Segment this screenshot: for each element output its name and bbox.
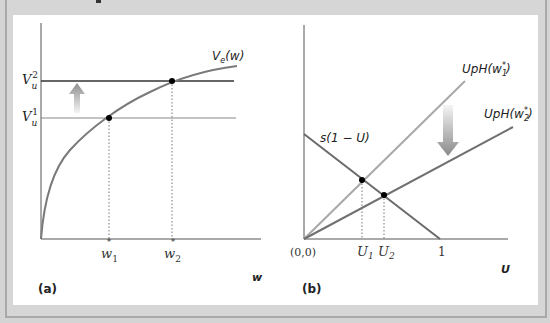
w2-star: *	[171, 237, 176, 247]
w2-tick-label: w2	[164, 246, 181, 264]
down-arrow-icon	[437, 105, 459, 156]
equilibrium-point-w2	[169, 78, 175, 84]
u2-tick-label: U2	[378, 244, 395, 261]
w1-star: *	[107, 237, 112, 247]
equilibrium-point-u1	[359, 177, 365, 183]
s-line-label: s(1 − U)	[320, 131, 370, 145]
figure-svg: Vu2 Vu1 Ve(w) w1 * w2 * w (a) s(1 − U) U…	[0, 0, 550, 323]
uph-w1-label: UpH(w1*)	[462, 61, 511, 78]
w1-tick-label: w1	[101, 246, 118, 264]
origin-label: (0,0)	[290, 246, 316, 259]
ve-curve	[41, 66, 237, 239]
u1-tick-label: U1	[357, 244, 374, 261]
one-tick-label: 1	[438, 245, 446, 259]
chart-b-x-axis-label: U	[501, 263, 510, 276]
equilibrium-point-w1	[106, 115, 112, 121]
cropped-title-fragment	[96, 0, 101, 3]
vu2-tick-label: Vu2	[22, 70, 38, 91]
up-arrow-icon	[69, 83, 85, 113]
uph-w1-line	[304, 81, 465, 239]
s-line	[304, 134, 440, 239]
equilibrium-point-u2	[381, 192, 387, 198]
chart-a-x-axis-label: w	[252, 271, 263, 284]
ve-curve-label: Ve(w)	[212, 49, 244, 65]
chart-a-panel-label: (a)	[38, 282, 57, 296]
vu1-tick-label: Vu1	[22, 107, 38, 128]
chart-b-panel-label: (b)	[302, 282, 322, 296]
uph-w2-label: UpH(w2*)	[484, 106, 533, 123]
